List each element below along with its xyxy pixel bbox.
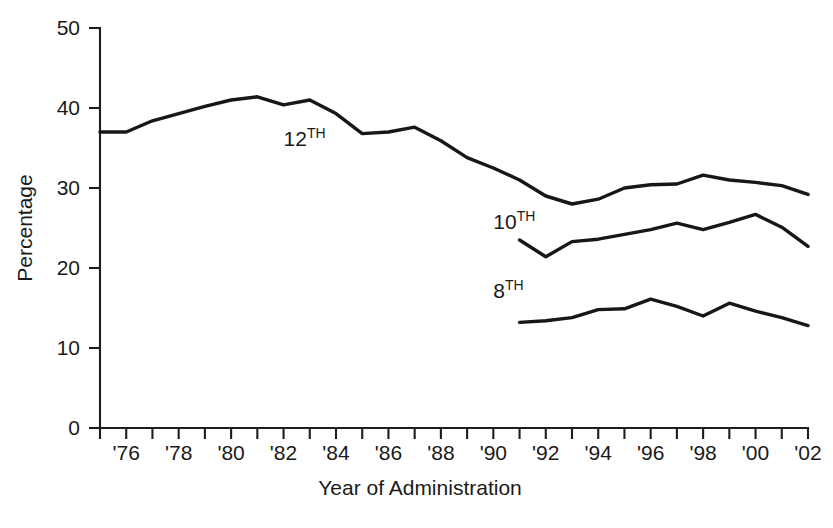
series-label-10th: 10TH xyxy=(493,208,535,233)
y-axis-tick-label: 30 xyxy=(57,176,80,199)
x-axis-tick-label: '94 xyxy=(585,441,613,464)
series-line-12th xyxy=(100,97,808,204)
x-axis-tick-label: '76 xyxy=(113,441,140,464)
series-label-12th-sup: TH xyxy=(307,125,326,141)
x-axis-ticks xyxy=(100,428,808,439)
x-axis-tick-label: '98 xyxy=(689,441,716,464)
chart-series-labels: 12TH10TH8TH xyxy=(284,125,536,302)
x-axis-tick-label: '86 xyxy=(375,441,402,464)
y-axis-tick-label: 10 xyxy=(57,336,80,359)
y-axis-tick-label: 0 xyxy=(68,416,80,439)
chart-axes xyxy=(89,28,808,439)
chart-container: 01020304050 '76'78'80'82'84'86'88'90'92'… xyxy=(0,0,833,528)
y-axis-tick-label: 40 xyxy=(57,96,80,119)
x-axis-tick-label: '82 xyxy=(270,441,297,464)
x-axis-title: Year of Administration xyxy=(318,476,522,499)
series-label-8th-base: 8 xyxy=(493,279,505,302)
x-axis-tick-label: '96 xyxy=(637,441,664,464)
series-label-12th: 12TH xyxy=(284,125,326,150)
series-label-12th-base: 12 xyxy=(284,127,307,150)
x-axis-tick-label: '02 xyxy=(794,441,821,464)
x-axis-tick-label: '88 xyxy=(427,441,454,464)
series-label-8th: 8TH xyxy=(493,277,523,302)
y-axis-tick-label: 50 xyxy=(57,16,80,39)
x-axis-tick-label: '90 xyxy=(480,441,507,464)
series-label-10th-sup: TH xyxy=(517,208,536,224)
x-axis-tick-label: '84 xyxy=(322,441,350,464)
x-axis-tick-label: '80 xyxy=(217,441,244,464)
x-axis-tick-labels: '76'78'80'82'84'86'88'90'92'94'96'98'00'… xyxy=(113,441,822,464)
y-axis-ticks xyxy=(89,28,100,428)
series-label-8th-sup: TH xyxy=(505,277,524,293)
x-axis-tick-label: '78 xyxy=(165,441,192,464)
line-chart: 01020304050 '76'78'80'82'84'86'88'90'92'… xyxy=(0,0,833,528)
y-axis-title: Percentage xyxy=(13,174,36,281)
x-axis-tick-label: '92 xyxy=(532,441,559,464)
x-axis-tick-label: '00 xyxy=(742,441,769,464)
chart-series-group xyxy=(100,97,808,326)
y-axis-tick-labels: 01020304050 xyxy=(57,16,80,439)
y-axis-tick-label: 20 xyxy=(57,256,80,279)
series-line-8th xyxy=(520,299,808,325)
series-label-10th-base: 10 xyxy=(493,210,516,233)
series-line-10th xyxy=(520,214,808,256)
